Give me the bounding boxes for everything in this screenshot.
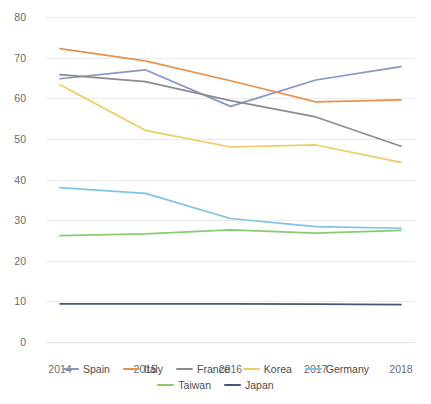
legend-label: Korea [264,364,292,375]
legend-label: Japan [245,380,274,391]
series-line-taiwan [60,230,401,236]
legend-label: Italy [144,364,163,375]
y-tick-10: 10 [0,296,26,307]
series-line-korea [60,85,401,163]
legend-swatch-icon-japan [224,384,241,386]
legend-row-primary: SpainItalyFranceKoreaGermany [0,361,431,377]
legend-label: Spain [83,364,110,375]
gridline-0 [46,342,415,343]
legend-label: France [197,364,230,375]
y-tick-30: 30 [0,215,26,226]
y-tick-20: 20 [0,256,26,267]
legend-item-france[interactable]: France [176,364,230,375]
series-line-germany [60,188,401,229]
line-chart: 01020304050607080 20142015201620172018 S… [0,0,431,404]
legend-swatch-icon-germany [305,368,322,370]
legend-swatch-icon-spain [62,368,79,370]
y-tick-80: 80 [0,12,26,23]
legend-swatch-icon-italy [123,368,140,370]
legend-row-secondary: TaiwanJapan [0,377,431,393]
legend-item-germany[interactable]: Germany [305,364,369,375]
legend-swatch-icon-korea [243,368,260,370]
y-tick-40: 40 [0,175,26,186]
legend-swatch-icon-taiwan [157,384,174,386]
y-tick-60: 60 [0,93,26,104]
series-line-japan [60,304,401,305]
legend-item-korea[interactable]: Korea [243,364,292,375]
plot-area: 01020304050607080 20142015201620172018 [46,17,415,342]
chart-legend: SpainItalyFranceKoreaGermany TaiwanJapan [0,361,431,393]
y-tick-0: 0 [0,337,26,348]
legend-item-taiwan[interactable]: Taiwan [157,380,211,391]
legend-item-italy[interactable]: Italy [123,364,163,375]
series-line-france [60,75,401,147]
y-tick-50: 50 [0,134,26,145]
legend-swatch-icon-france [176,368,193,370]
legend-item-spain[interactable]: Spain [62,364,110,375]
y-tick-70: 70 [0,53,26,64]
legend-label: Germany [326,364,369,375]
legend-item-japan[interactable]: Japan [224,380,274,391]
series-lines [46,17,415,342]
legend-label: Taiwan [178,380,211,391]
